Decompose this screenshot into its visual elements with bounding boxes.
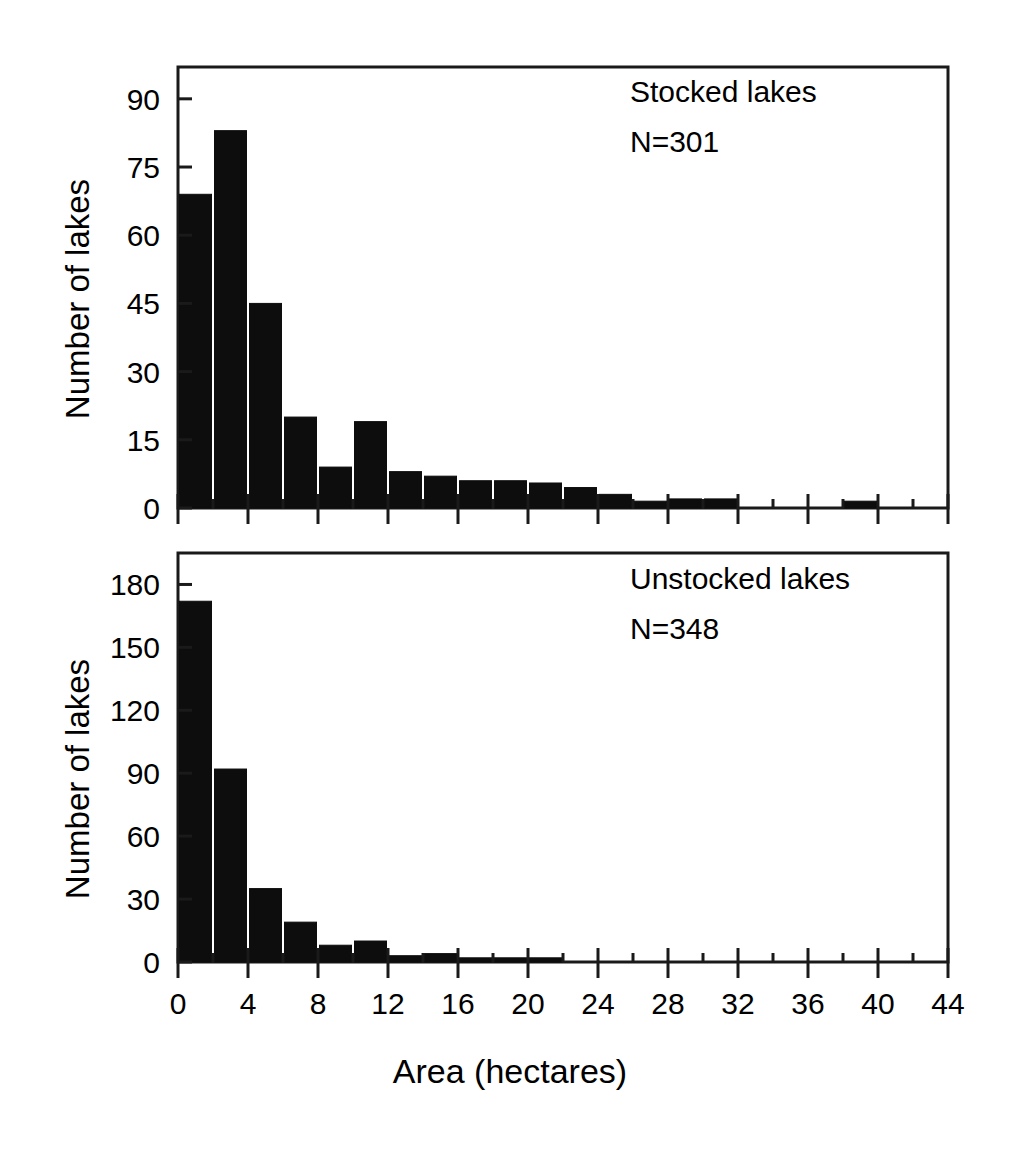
y-axis-tick-label: 45 <box>127 287 160 320</box>
histogram-bar <box>285 417 317 508</box>
histogram-bar <box>390 472 422 508</box>
histogram-bar <box>495 958 527 962</box>
y-axis-tick-label: 180 <box>110 568 160 601</box>
histogram-bar <box>320 467 352 508</box>
histogram-bar <box>250 889 282 962</box>
histogram-bar <box>215 131 247 508</box>
x-axis-tick-label: 16 <box>441 987 474 1020</box>
x-axis-tick-label: 36 <box>791 987 824 1020</box>
histogram-bar <box>390 956 422 962</box>
histogram-bar <box>705 499 737 508</box>
x-axis-tick-label: 32 <box>721 987 754 1020</box>
panel-stocked-lakes: 0153045607590 <box>127 67 948 525</box>
histogram-bar <box>635 501 667 508</box>
x-axis-tick-label: 20 <box>511 987 544 1020</box>
histogram-bar <box>355 941 387 962</box>
y-axis-tick-label: 60 <box>127 820 160 853</box>
x-axis-tick-label: 0 <box>170 987 187 1020</box>
y-axis-tick-label: 30 <box>127 883 160 916</box>
x-axis-tick-label: 12 <box>371 987 404 1020</box>
y-axis-tick-label: 60 <box>127 219 160 252</box>
y-axis-tick-label: 30 <box>127 356 160 389</box>
histogram-bar <box>285 922 317 962</box>
histogram-bar <box>425 954 457 962</box>
y-axis-tick-label: 15 <box>127 424 160 457</box>
histogram-bar <box>180 601 212 962</box>
figure-histogram-pair: Number of lakes Number of lakes Stocked … <box>0 0 1020 1161</box>
histogram-bar <box>355 422 387 508</box>
histogram-bar <box>565 488 597 508</box>
y-axis-tick-label: 90 <box>127 83 160 116</box>
histogram-bar <box>215 769 247 962</box>
histogram-bar <box>425 476 457 508</box>
histogram-bar <box>670 499 702 508</box>
x-axis-tick-label: 28 <box>651 987 684 1020</box>
histogram-bar <box>530 483 562 508</box>
x-axis-tick-label: 24 <box>581 987 614 1020</box>
y-axis-tick-label: 0 <box>143 946 160 979</box>
plot-canvas: 0153045607590 03060901201501800481216202… <box>0 0 1020 1161</box>
panel-unstocked-lakes: 0306090120150180048121620242832364044 <box>110 553 965 1020</box>
histogram-bar <box>460 958 492 962</box>
x-axis-tick-label: 4 <box>240 987 257 1020</box>
y-axis-tick-label: 90 <box>127 757 160 790</box>
histogram-bar <box>180 194 212 508</box>
histogram-bar <box>845 501 877 508</box>
y-axis-tick-label: 120 <box>110 694 160 727</box>
histogram-bar <box>250 303 282 508</box>
histogram-bar <box>320 945 352 962</box>
histogram-bar <box>495 481 527 508</box>
y-axis-tick-label: 0 <box>143 492 160 525</box>
histogram-bar <box>460 481 492 508</box>
y-axis-tick-label: 150 <box>110 631 160 664</box>
y-axis-tick-label: 75 <box>127 151 160 184</box>
histogram-bar <box>600 494 632 508</box>
x-axis-tick-label: 40 <box>861 987 894 1020</box>
x-axis-tick-label: 8 <box>310 987 327 1020</box>
histogram-bar <box>530 958 562 962</box>
x-axis-tick-label: 44 <box>931 987 964 1020</box>
